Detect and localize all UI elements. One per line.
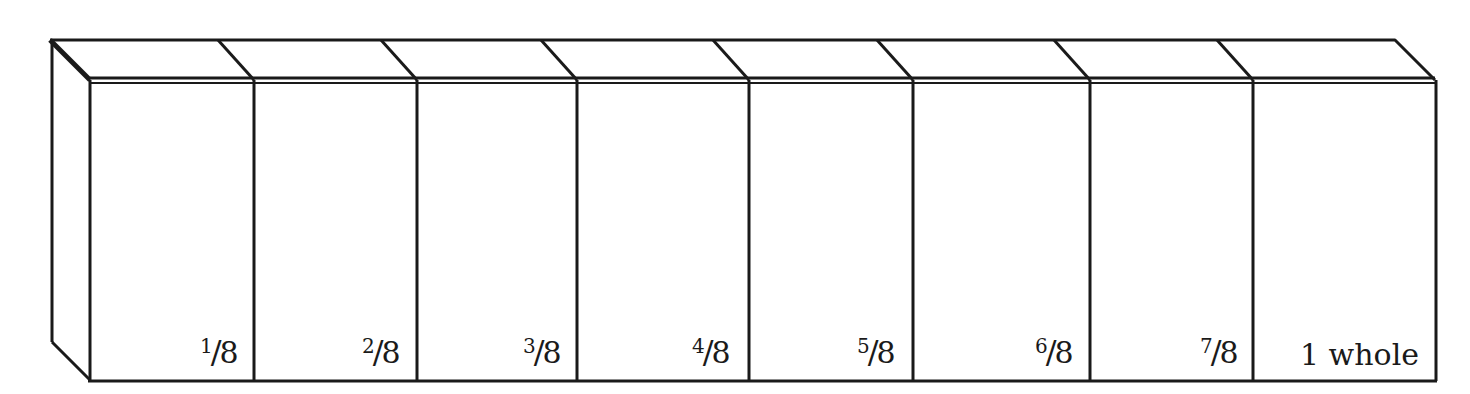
segment-label-3-8: 3/8 (523, 336, 562, 368)
top-left-diagonal (50, 40, 90, 80)
fraction-strip-diagram: 1/8 2/8 3/8 4/8 5/8 6/8 7/8 1 whole (0, 0, 1470, 394)
segment-label-7-8: 7/8 (1200, 336, 1239, 368)
segment-label-2-8: 2/8 (362, 336, 401, 368)
segment-label-1-whole: 1 whole (1300, 340, 1419, 370)
segment-label-1-8: 1/8 (200, 336, 239, 368)
bottom-left-diagonal (52, 342, 90, 380)
segment-label-4-8: 4/8 (692, 336, 731, 368)
segment-dividers (218, 40, 1253, 381)
segment-label-6-8: 6/8 (1035, 336, 1074, 368)
segment-label-5-8: 5/8 (857, 336, 896, 368)
